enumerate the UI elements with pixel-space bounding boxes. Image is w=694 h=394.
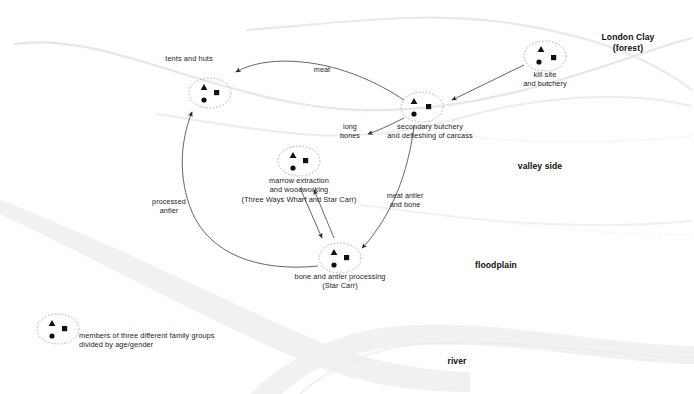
diagram-canvas: kill site and butchery secondary butcher… — [0, 0, 694, 394]
terrain-label-valley-side: valley side — [500, 161, 580, 172]
family-group-c-square-icon — [303, 158, 308, 163]
terrain-label-river: river — [427, 356, 487, 367]
family-group-c-square-icon — [214, 90, 219, 95]
family-group-b-circle-icon — [49, 333, 54, 338]
family-group-b-circle-icon — [536, 59, 541, 64]
flow-label-meat-antler-and-bone: meat antler and bone — [370, 191, 440, 209]
family-group-a-triangle-icon — [331, 249, 338, 255]
node-outline — [37, 314, 79, 344]
family-group-b-circle-icon — [411, 111, 416, 116]
terrace-band — [0, 200, 470, 392]
node-family-groups-legend — [37, 314, 79, 344]
node-label-kill-site: kill site and butchery — [495, 70, 595, 89]
node-outline — [319, 243, 361, 273]
node-outline — [524, 41, 566, 71]
terrain-label-floodplain: floodplain — [456, 260, 536, 271]
terrain-label-london-clay: London Clay (forest) — [578, 32, 678, 54]
family-group-a-triangle-icon — [411, 98, 418, 104]
flow-label-processed-antler: processed antler — [134, 197, 204, 215]
family-group-b-circle-icon — [331, 262, 336, 267]
node-label-family-groups-legend: members of three different family groups… — [79, 331, 289, 350]
family-group-a-triangle-icon — [290, 152, 297, 158]
family-group-c-square-icon — [62, 326, 67, 331]
node-outline — [278, 146, 320, 176]
node-bone-antler-processing[interactable] — [319, 243, 361, 273]
node-marrow-extraction[interactable] — [278, 146, 320, 176]
node-kill-site[interactable] — [524, 41, 566, 71]
family-group-b-circle-icon — [290, 165, 295, 170]
family-group-a-triangle-icon — [49, 320, 56, 326]
family-group-c-square-icon — [426, 104, 431, 109]
flow-label-meat: meat — [297, 65, 347, 74]
flow-arrow-layer — [182, 61, 524, 267]
family-group-c-square-icon — [344, 255, 349, 260]
family-group-c-square-icon — [551, 55, 556, 60]
family-group-a-triangle-icon — [538, 46, 545, 52]
flow-label-long-bones: long bones — [328, 122, 372, 140]
node-label-tents-and-huts: tents and huts — [139, 54, 239, 63]
node-label-bone-antler-processing: bone and antler processing (Star Carr) — [265, 272, 415, 291]
node-label-secondary-butchery: secondary butchery and defleshing of car… — [360, 122, 500, 141]
family-group-b-circle-icon — [201, 97, 206, 102]
family-group-a-triangle-icon — [201, 84, 208, 90]
node-label-marrow-extraction: marrow extraction and woodworking (Three… — [209, 176, 389, 204]
